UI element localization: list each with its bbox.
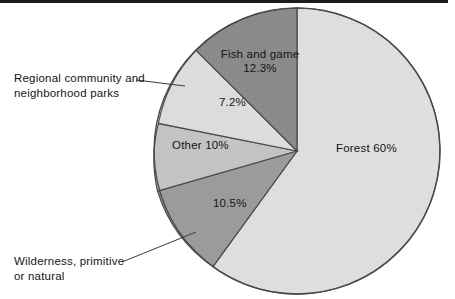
callout-label-regional-parks-line1: Regional community and [14, 71, 145, 86]
pie-label-fish-and-game-value: 12.3% [212, 62, 308, 76]
pie-label-wilderness-value: 10.5% [213, 197, 247, 211]
callout-label-regional-parks: Regional community and neighborhood park… [14, 71, 145, 101]
pie-label-fish-and-game: Fish and game 12.3% [212, 48, 308, 75]
leader-line-wilderness [122, 232, 196, 262]
callout-label-wilderness-line2: or natural [14, 269, 124, 284]
callout-label-wilderness: Wilderness, primitive or natural [14, 254, 124, 284]
pie-label-forest: Forest 60% [336, 142, 397, 156]
callout-label-regional-parks-line2: neighborhood parks [14, 86, 145, 101]
pie-label-regional-parks-value: 7.2% [219, 96, 246, 110]
pie-label-other: Other 10% [172, 139, 229, 153]
pie-chart-figure: Fish and game 12.3% Forest 60% 7.2% Othe… [0, 0, 455, 299]
pie-label-fish-and-game-name: Fish and game [212, 48, 308, 62]
callout-label-wilderness-line1: Wilderness, primitive [14, 254, 124, 269]
